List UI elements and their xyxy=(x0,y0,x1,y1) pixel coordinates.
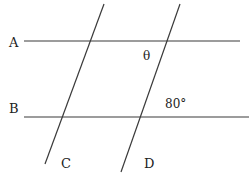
label-d: D xyxy=(144,156,154,171)
angle-theta-label: θ xyxy=(143,49,150,63)
parallel-lines-diagram: A B C D θ 80° xyxy=(0,0,249,178)
label-b: B xyxy=(9,101,19,116)
line-c xyxy=(45,4,104,164)
label-c: C xyxy=(61,156,71,171)
label-a: A xyxy=(8,35,19,50)
angle-80-label: 80° xyxy=(165,97,186,111)
line-d xyxy=(121,4,180,172)
